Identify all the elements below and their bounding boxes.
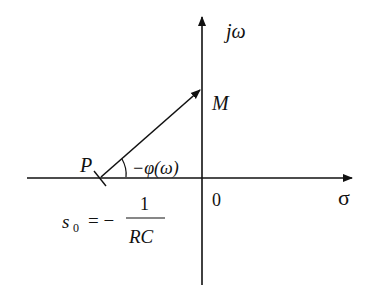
equals-minus: = − bbox=[88, 210, 114, 231]
s0-subscript: 0 bbox=[73, 221, 79, 235]
origin-label: 0 bbox=[212, 190, 221, 210]
s-plane-diagram: jω σ 0 M P −φ(ω) s 0 = − 1 RC bbox=[0, 0, 372, 304]
fraction-numerator: 1 bbox=[140, 194, 149, 214]
fraction-denominator: RC bbox=[128, 226, 154, 247]
labels-layer: jω σ 0 M P −φ(ω) s 0 = − 1 RC bbox=[0, 0, 372, 304]
pole-p-label: P bbox=[79, 154, 92, 176]
sigma-axis-label: σ bbox=[338, 185, 350, 210]
point-m-label: M bbox=[211, 92, 230, 114]
s0-symbol: s bbox=[62, 211, 69, 232]
angle-label: −φ(ω) bbox=[132, 158, 179, 179]
jw-axis-label: jω bbox=[223, 20, 246, 43]
